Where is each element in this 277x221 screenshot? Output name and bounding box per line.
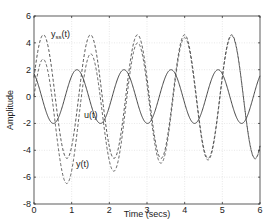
x-tick-label: 6 xyxy=(257,205,262,215)
x-tick-label: 0 xyxy=(31,205,36,215)
x-tick-label: 1 xyxy=(69,205,74,215)
y-tick-label: 2 xyxy=(26,65,31,75)
x-tick-label: 5 xyxy=(220,205,225,215)
grid-lines xyxy=(34,16,260,204)
y-tick-label: -2 xyxy=(23,118,31,128)
y-annotation: y(t) xyxy=(76,159,89,169)
y-tick-label: -4 xyxy=(23,145,31,155)
y-axis-label: Amplitude xyxy=(5,90,15,130)
line-chart: 0123456-8-6-4-20246 Time (secs) Amplitud… xyxy=(0,0,277,221)
axis-ticks: 0123456-8-6-4-20246 xyxy=(23,11,263,215)
y-tick-label: -6 xyxy=(23,172,31,182)
yss-annotation: yss(t) xyxy=(51,29,70,40)
x-tick-label: 4 xyxy=(182,205,187,215)
y-tick-label: 6 xyxy=(26,11,31,21)
y-tick-label: -8 xyxy=(23,199,31,209)
x-tick-label: 2 xyxy=(107,205,112,215)
y-tick-label: 0 xyxy=(26,92,31,102)
y-tick-label: 4 xyxy=(26,38,31,48)
u-annotation: u(t) xyxy=(84,110,98,120)
x-axis-label: Time (secs) xyxy=(124,209,171,219)
